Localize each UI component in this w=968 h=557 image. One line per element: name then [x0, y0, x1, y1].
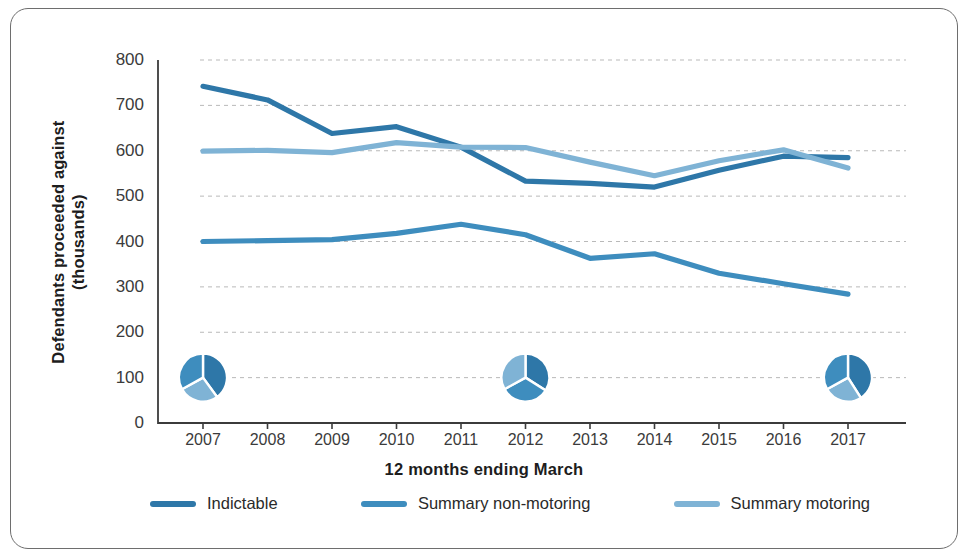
y-axis-tick-label: 300	[88, 277, 144, 297]
chart-legend: IndictableSummary non-motoringSummary mo…	[150, 494, 870, 513]
x-axis-tick-label: 2007	[168, 431, 238, 449]
x-axis-tick-label: 2012	[491, 431, 561, 449]
x-axis-tick-label: 2016	[749, 431, 819, 449]
x-axis-tick-label: 2011	[426, 431, 496, 449]
y-axis-title: Defendants proceeded against (thousands)	[46, 60, 92, 425]
y-axis-tick-label: 400	[88, 232, 144, 252]
y-axis-title-line1: Defendants proceeded against	[50, 121, 68, 364]
y-axis-tick-label: 800	[88, 50, 144, 70]
y-axis-tick-label: 500	[88, 186, 144, 206]
x-axis-tick-label: 2015	[684, 431, 754, 449]
legend-label: Summary motoring	[731, 494, 870, 513]
legend-swatch-icon	[674, 501, 720, 507]
legend-label: Summary non-motoring	[418, 494, 590, 513]
y-axis-title-line2: (thousands)	[70, 195, 88, 291]
y-axis-tick-label: 700	[88, 95, 144, 115]
legend-label: Indictable	[207, 494, 278, 513]
x-axis-tick-label: 2013	[555, 431, 625, 449]
y-axis-tick-label: 600	[88, 141, 144, 161]
y-axis-tick-label: 0	[88, 413, 144, 433]
x-axis-tick-label: 2017	[813, 431, 883, 449]
x-axis-tick-label: 2008	[233, 431, 303, 449]
x-axis-tick-label: 2009	[297, 431, 367, 449]
x-axis-title: 12 months ending March	[0, 460, 968, 479]
legend-swatch-icon	[150, 501, 196, 507]
legend-swatch-icon	[361, 501, 407, 507]
legend-item-indictable[interactable]: Indictable	[150, 494, 278, 513]
legend-item-summary-motoring[interactable]: Summary motoring	[674, 494, 870, 513]
x-axis-tick-label: 2014	[620, 431, 690, 449]
x-axis-tick-label: 2010	[362, 431, 432, 449]
y-axis-tick-label: 200	[88, 322, 144, 342]
y-axis-tick-label: 100	[88, 368, 144, 388]
legend-item-summary-non-motoring[interactable]: Summary non-motoring	[361, 494, 590, 513]
